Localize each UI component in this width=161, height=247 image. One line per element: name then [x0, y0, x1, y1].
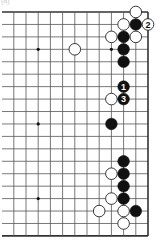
star-point — [110, 48, 113, 51]
black-stone — [118, 56, 130, 68]
white-stone — [69, 44, 81, 56]
white-stone — [93, 205, 105, 217]
black-stone — [118, 155, 130, 167]
move-number: 1 — [121, 82, 126, 92]
white-stone — [106, 31, 118, 43]
black-stone — [118, 168, 130, 180]
white-stone — [118, 19, 130, 31]
black-stone — [118, 193, 130, 205]
move-number: 3 — [121, 94, 126, 104]
black-stone-3: 3 — [118, 93, 130, 105]
white-stone — [118, 218, 130, 230]
move-number: 2 — [145, 20, 150, 30]
star-point — [37, 197, 40, 200]
star-point — [37, 122, 40, 125]
black-stone — [106, 118, 118, 130]
black-stone — [118, 31, 130, 43]
white-stone — [106, 93, 118, 105]
white-stone — [130, 31, 142, 43]
black-stone — [118, 44, 130, 56]
black-stone — [118, 180, 130, 192]
white-stone — [106, 193, 118, 205]
white-stone — [118, 205, 130, 217]
black-stone-1: 1 — [118, 81, 130, 93]
white-stone — [106, 168, 118, 180]
black-stone — [130, 19, 142, 31]
star-point — [37, 48, 40, 51]
white-stone-2: 2 — [142, 19, 154, 31]
white-stone — [130, 6, 142, 18]
go-board: 213 — [0, 0, 161, 247]
black-stone — [130, 205, 142, 217]
